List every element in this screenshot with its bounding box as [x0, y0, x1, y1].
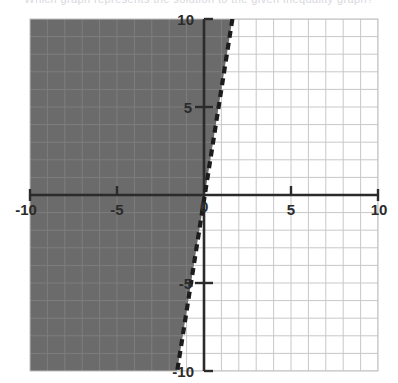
x-axis-label-5: 5: [287, 201, 295, 218]
origin-label: 0: [200, 198, 208, 215]
coordinate-plane-svg: -10 -5 5 10 10 5 -5 -10 0: [0, 0, 398, 383]
y-axis-label--5: -5: [179, 275, 192, 292]
y-axis-label--10: -10: [172, 363, 194, 380]
y-axis-label-5: 5: [184, 99, 192, 116]
x-axis-label--10: -10: [15, 201, 37, 218]
y-axis-label-10: 10: [177, 11, 194, 28]
x-axis-label--5: -5: [110, 201, 123, 218]
inequality-graph-figure: Which graph represents the solution to t…: [0, 0, 398, 383]
x-axis-label-10: 10: [371, 201, 388, 218]
